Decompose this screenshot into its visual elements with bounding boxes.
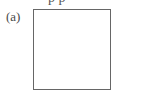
cropped-caption-text: p p <box>48 0 108 5</box>
empty-square-panel <box>33 9 111 90</box>
panel-label: (a) <box>6 10 20 24</box>
